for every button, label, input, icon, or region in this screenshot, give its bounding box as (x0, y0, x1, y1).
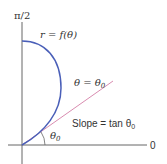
polar-tangent-diagram: π/2 0 r = f(θ) θ = θ0 Slope = tan θ0 θ0 (0, 0, 167, 164)
slope-label-main: Slope = tan θ (72, 118, 132, 129)
vertical-axis-label: π/2 (14, 10, 30, 21)
angle-label: θ0 (50, 130, 61, 143)
slope-label-sub: 0 (131, 123, 135, 130)
curve-label: r = f(θ) (40, 29, 77, 40)
angle-label-sub: 0 (56, 135, 61, 143)
ray-label-main: θ = θ (74, 77, 101, 88)
horizontal-axis-label: 0 (150, 140, 156, 151)
ray-label-sub: 0 (101, 82, 106, 90)
angle-arc (41, 132, 45, 145)
ray-label: θ = θ0 (74, 77, 106, 90)
slope-label: Slope = tan θ0 (72, 118, 135, 130)
